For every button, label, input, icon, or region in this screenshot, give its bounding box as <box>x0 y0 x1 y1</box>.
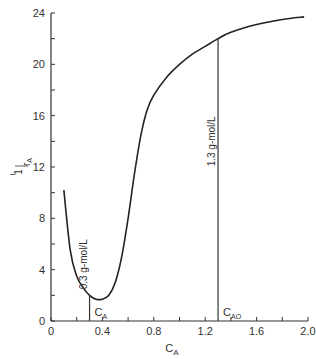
y-label-denominator: rA <box>21 158 33 166</box>
x-tick-label: 1.6 <box>249 325 264 337</box>
x-tick-label: 0 <box>48 325 54 337</box>
chart: 00.40.81.21.62.004812162024 0.3 g-mol/LC… <box>0 0 316 359</box>
data-curve <box>64 17 304 300</box>
axes: 00.40.81.21.62.004812162024 <box>33 7 316 337</box>
annotation-label: 0.3 g-mol/L <box>78 239 89 289</box>
y-axis-label: − 1 rA <box>10 158 33 180</box>
y-tick-label: 12 <box>33 161 45 173</box>
annotation-sub-label: CAO <box>223 306 242 320</box>
y-tick-label: 24 <box>33 7 45 19</box>
y-tick-label: 0 <box>39 315 45 327</box>
x-tick-label: 0.4 <box>95 325 110 337</box>
y-label-numerator: 1 <box>13 169 24 175</box>
x-tick-label: 1.2 <box>198 325 213 337</box>
y-tick-label: 20 <box>33 58 45 70</box>
annotation-sub-label: CA <box>95 306 108 320</box>
x-tick-label: 0.8 <box>146 325 161 337</box>
x-axis-label: CA <box>165 342 179 357</box>
annotation-label: 1.3 g-mol/L <box>206 116 217 166</box>
x-tick-label: 2.0 <box>300 325 315 337</box>
y-tick-label: 8 <box>39 212 45 224</box>
curve-line <box>64 17 304 300</box>
y-tick-label: 4 <box>39 264 45 276</box>
annotations: 0.3 g-mol/LCA1.3 g-mol/LCAO <box>78 39 242 321</box>
y-tick-label: 16 <box>33 110 45 122</box>
